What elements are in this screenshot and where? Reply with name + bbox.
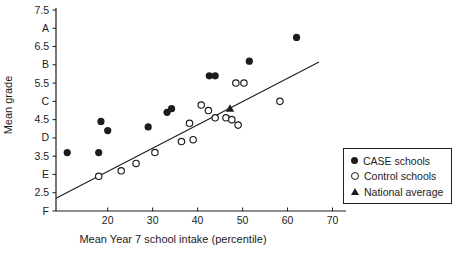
control-school-point: [205, 107, 211, 113]
case-school-point: [97, 118, 104, 125]
y-tick-label: 7.5: [34, 4, 49, 16]
y-tick-label: 4.5: [34, 113, 49, 125]
legend-label: CASE schools: [363, 155, 430, 167]
case-school-point: [246, 58, 253, 65]
legend-label: Control schools: [364, 170, 436, 182]
open-circle-icon: [351, 172, 359, 180]
case-school-point: [168, 105, 175, 112]
y-tick-label: 6.5: [34, 40, 49, 52]
control-school-point: [118, 168, 124, 174]
y-tick-label: 3.5: [34, 150, 49, 162]
control-school-point: [152, 149, 158, 155]
filled-circle-icon: [351, 157, 358, 164]
control-school-point: [233, 80, 239, 86]
y-axis-title: Mean grade: [2, 50, 14, 160]
y-tick-label: D: [41, 131, 49, 143]
control-school-point: [96, 173, 102, 179]
control-school-point: [277, 98, 283, 104]
filled-triangle-icon: [351, 188, 359, 195]
y-tick-label: 5.5: [34, 77, 49, 89]
y-tick-label: F: [43, 205, 49, 217]
control-school-point: [178, 138, 184, 144]
control-school-point: [235, 122, 241, 128]
case-school-point: [145, 123, 152, 130]
x-axis-title: Mean Year 7 school intake (percentile): [0, 233, 346, 245]
control-school-point: [212, 115, 218, 121]
control-school-point: [198, 102, 204, 108]
control-school-point: [190, 137, 196, 143]
control-school-point: [186, 120, 192, 126]
y-tick-label: B: [42, 58, 49, 70]
chart-canvas: 7.5A6.5B5.5C4.5D3.5E2.5F203040506070: [0, 0, 459, 255]
x-tick-label: 60: [282, 214, 294, 226]
case-school-point: [104, 127, 111, 134]
control-school-point: [229, 116, 235, 122]
legend-item-case-schools: CASE schools: [351, 155, 451, 167]
x-tick-label: 20: [102, 214, 114, 226]
legend: CASE schools Control schools National av…: [343, 148, 452, 204]
legend-item-control-schools: Control schools: [351, 170, 451, 182]
legend-item-national-average: National average: [351, 186, 451, 198]
y-tick-label: C: [41, 95, 49, 107]
x-tick-label: 40: [192, 214, 204, 226]
legend-label: National average: [364, 186, 443, 198]
y-tick-label: 2.5: [34, 186, 49, 198]
case-school-point: [212, 72, 219, 79]
y-tick-label: E: [42, 168, 49, 180]
case-school-point: [95, 149, 102, 156]
scatter-plot-figure: 7.5A6.5B5.5C4.5D3.5E2.5F203040506070 Mea…: [0, 0, 459, 255]
control-school-point: [133, 160, 139, 166]
x-tick-label: 30: [147, 214, 159, 226]
x-tick-label: 70: [327, 214, 339, 226]
national-average-point: [226, 104, 234, 112]
control-school-point: [241, 80, 247, 86]
y-tick-label: A: [42, 22, 49, 34]
x-tick-label: 50: [237, 214, 249, 226]
case-school-point: [293, 34, 300, 41]
case-school-point: [64, 149, 71, 156]
